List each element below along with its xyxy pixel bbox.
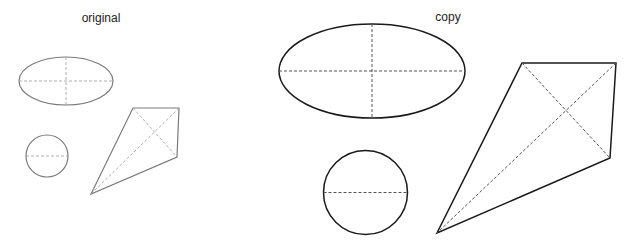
copy-label: copy: [435, 10, 460, 24]
diagram-canvas: original copy: [0, 0, 634, 248]
original-ellipse: [19, 57, 113, 105]
copy-ellipse: [279, 24, 465, 118]
copy-group: [279, 24, 616, 235]
original-label: original: [82, 11, 121, 25]
original-group: [19, 57, 179, 194]
diagram-svg: original copy: [0, 0, 634, 248]
original-circle: [26, 135, 68, 177]
copy-kite: [437, 63, 616, 233]
original-kite: [91, 108, 179, 194]
copy-circle: [324, 151, 408, 235]
